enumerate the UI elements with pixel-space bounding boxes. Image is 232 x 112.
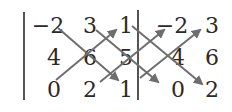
cell-r2c5: 6: [205, 45, 219, 70]
cell-r1c2: 3: [83, 13, 97, 38]
cell-r1c3: 1: [119, 13, 133, 38]
cell-r3c4: 0: [171, 77, 185, 102]
cell-r3c2: 2: [83, 77, 97, 102]
cell-r3c5: 2: [205, 77, 219, 102]
cell-r1c5: 3: [205, 13, 219, 38]
cell-r1c1: −2: [32, 13, 64, 38]
cell-r2c1: 4: [47, 45, 61, 70]
sarrus-diagram: −2 3 1 −2 3 4 6 5 4 6 0 2 1 0 2: [0, 0, 232, 112]
cell-r1c4: −2: [156, 13, 188, 38]
cell-r3c1: 0: [47, 77, 61, 102]
cell-r3c3: 1: [119, 77, 133, 102]
